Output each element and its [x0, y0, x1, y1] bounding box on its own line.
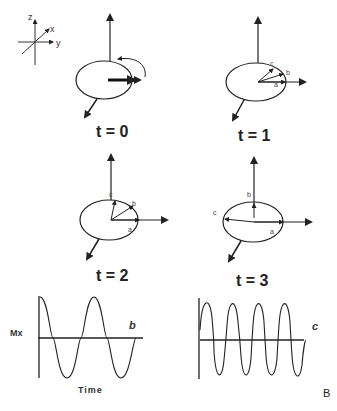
vector-label-b: b	[132, 200, 136, 207]
time-label-t0: t = 0	[96, 123, 129, 140]
time-label-t3: t = 3	[236, 272, 269, 289]
panel-t0: t = 0	[76, 15, 145, 140]
time-label-t1: t = 1	[238, 127, 271, 144]
panel-t1: a b c t = 1	[226, 18, 305, 144]
vector-label-a: a	[270, 228, 274, 235]
rotation-arrow-icon	[118, 58, 145, 77]
y-axis-label: Mx	[10, 328, 23, 338]
panel-t3: a b c t = 3	[213, 158, 311, 289]
x-axis-label: x	[50, 24, 55, 34]
panel-t2: a b c t = 2	[80, 155, 167, 284]
precession-diagram: z x y t = 0 a b c t = 1 a b c	[0, 0, 337, 411]
vector-label-c: c	[213, 209, 217, 216]
series-label-c: c	[312, 320, 318, 332]
axes-key: z x y	[18, 12, 61, 65]
plot-c: c	[199, 298, 318, 379]
vector-label-b: b	[247, 191, 251, 198]
series-label-b: b	[129, 319, 136, 331]
vector-label-a: a	[128, 226, 132, 233]
vector-label-c: c	[270, 60, 274, 67]
panel-letter: B	[323, 387, 330, 399]
z-axis-label: z	[28, 12, 33, 22]
vector-label-a: a	[274, 81, 278, 88]
y-axis-label: y	[56, 38, 61, 48]
vector-label-b: b	[286, 69, 290, 76]
x-axis-label: Time	[78, 385, 103, 395]
plot-b: Mx Time b	[10, 296, 143, 395]
time-label-t2: t = 2	[96, 267, 129, 284]
vector-label-c: c	[109, 191, 113, 198]
